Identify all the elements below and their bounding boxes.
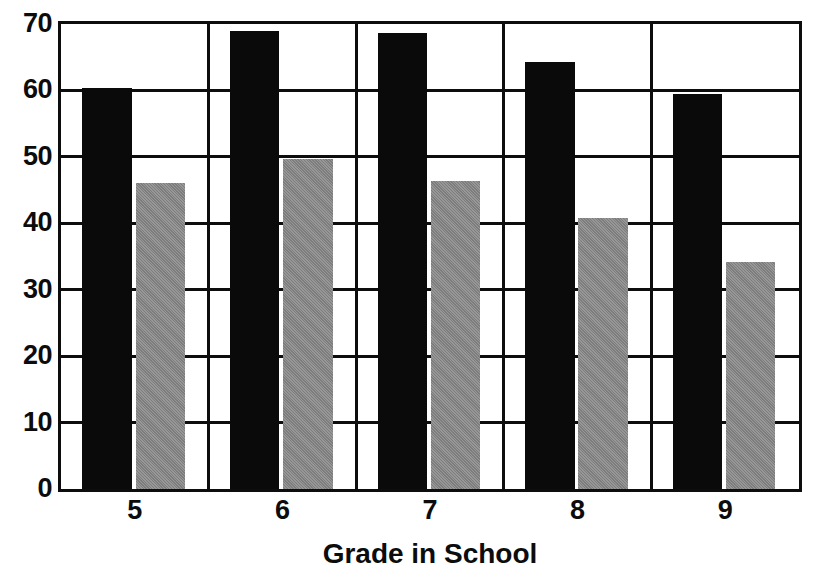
y-axis-tick-label: 40 [4,209,52,236]
x-axis-title: Grade in School [58,538,802,570]
y-axis-tick-label: 10 [4,409,52,436]
plot-area [58,21,802,492]
y-axis-tick-label: 70 [4,10,52,37]
bar-series-dark-9 [673,94,722,489]
bar-series-dark-6 [230,31,279,489]
bar-chart: 010203040506070 56789 Grade in School [0,0,814,579]
y-axis-tick-labels: 010203040506070 [0,0,52,579]
x-axis-tick-label: 8 [504,497,652,524]
bar-series-dark-7 [378,33,427,489]
bar-series-gray-5 [136,183,185,489]
x-axis-tick-label: 7 [356,497,504,524]
bar-series-gray-9 [726,262,775,489]
y-axis-tick-label: 30 [4,276,52,303]
gridline-vertical [207,24,210,489]
y-axis-tick-label: 50 [4,143,52,170]
bar-series-dark-8 [525,62,574,489]
bar-series-gray-7 [431,181,480,489]
x-axis-tick-label: 5 [61,497,209,524]
bar-series-gray-6 [283,159,332,489]
bar-series-gray-8 [578,218,627,489]
gridline-vertical [355,24,358,489]
x-axis-tick-label: 9 [651,497,799,524]
y-axis-tick-label: 60 [4,76,52,103]
y-axis-tick-label: 0 [4,475,52,502]
x-axis-tick-label: 6 [209,497,357,524]
gridline-vertical [502,24,505,489]
plot-inner [61,24,799,489]
gridline-vertical [650,24,653,489]
gridline-horizontal [61,89,799,92]
x-axis-tick-labels: 56789 [58,497,802,541]
y-axis-tick-label: 20 [4,342,52,369]
bar-series-dark-5 [82,88,131,489]
